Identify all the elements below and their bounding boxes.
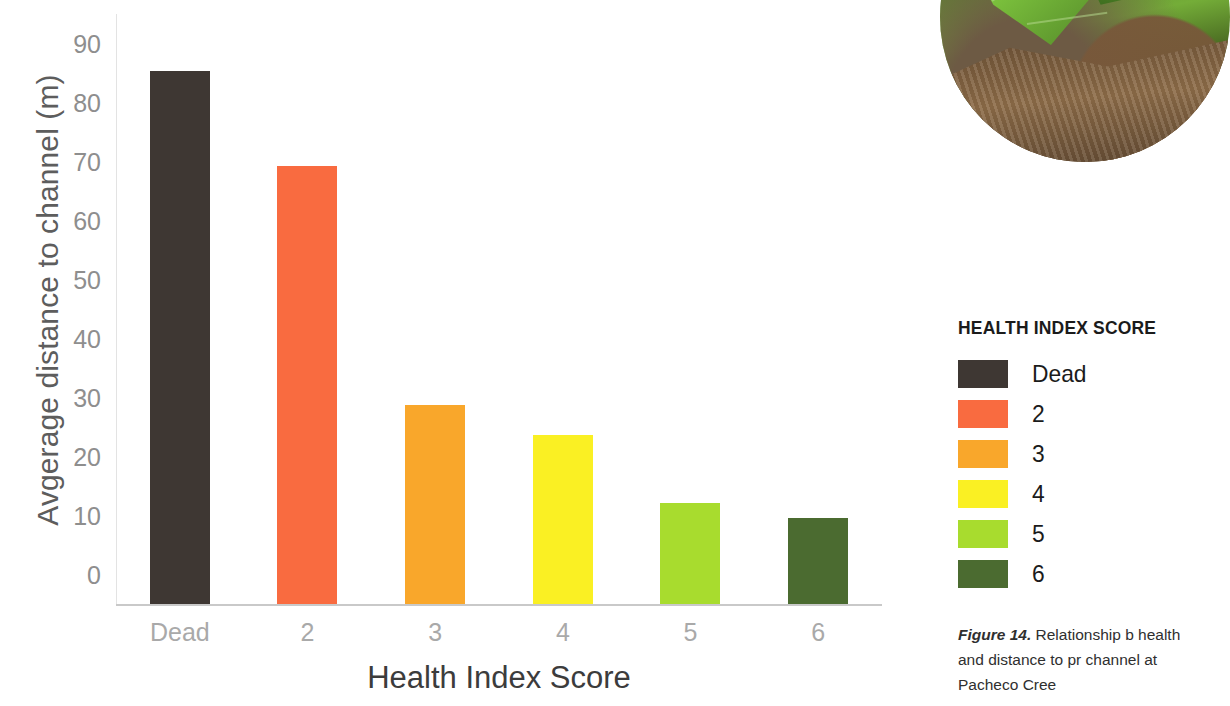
bar-group: 2	[244, 14, 372, 604]
legend-color-swatch	[958, 520, 1008, 548]
bar-group: 5	[627, 14, 755, 604]
bar-group: Dead	[116, 14, 244, 604]
legend-color-swatch	[958, 400, 1008, 428]
legend-item[interactable]: 6	[958, 557, 1178, 591]
x-axis-title: Health Index Score	[116, 660, 882, 696]
legend-item-label: 3	[1032, 440, 1045, 468]
bar[interactable]	[533, 435, 593, 604]
y-tick-label: 40	[73, 325, 116, 354]
bar-series: Dead23456	[116, 14, 882, 604]
legend-item[interactable]: 2	[958, 397, 1178, 431]
y-tick-label: 70	[73, 148, 116, 177]
legend-item[interactable]: 3	[958, 437, 1178, 471]
y-tick-label: 60	[73, 207, 116, 236]
y-tick-label: 10	[73, 502, 116, 531]
legend-item[interactable]: Dead	[958, 357, 1178, 391]
x-tick-label: 4	[556, 618, 570, 647]
bar[interactable]	[788, 518, 848, 604]
x-tick-label: 2	[301, 618, 315, 647]
legend: HEALTH INDEX SCORE Dead23456	[958, 317, 1178, 597]
legend-item-label: 6	[1032, 560, 1045, 588]
x-tick-label: 6	[811, 618, 825, 647]
bar-group: 3	[371, 14, 499, 604]
x-tick-label: 5	[684, 618, 698, 647]
bar-chart: Avgerage distance to channel (m) 0102030…	[0, 0, 930, 706]
figure-number: Figure 14.	[958, 626, 1031, 643]
y-tick-label: 90	[73, 30, 116, 59]
legend-item-label: 5	[1032, 520, 1045, 548]
legend-color-swatch	[958, 440, 1008, 468]
bar[interactable]	[277, 166, 337, 604]
y-axis-title: Avgerage distance to channel (m)	[31, 0, 65, 606]
legend-color-swatch	[958, 560, 1008, 588]
bar[interactable]	[150, 71, 210, 604]
legend-title: HEALTH INDEX SCORE	[958, 317, 1160, 339]
bar[interactable]	[660, 503, 720, 604]
legend-color-swatch	[958, 480, 1008, 508]
x-tick-label: Dead	[150, 618, 210, 647]
x-tick-label: 3	[428, 618, 442, 647]
legend-color-swatch	[958, 360, 1008, 388]
figure-caption: Figure 14. Relationship b health and dis…	[958, 622, 1194, 697]
legend-item-label: 4	[1032, 480, 1045, 508]
plot-area: 0102030405060708090100 Dead23456	[116, 14, 882, 606]
legend-item[interactable]: 4	[958, 477, 1178, 511]
plant-photo	[940, 0, 1230, 162]
bar-group: 4	[499, 14, 627, 604]
legend-items: Dead23456	[958, 357, 1178, 591]
legend-item-label: 2	[1032, 400, 1045, 428]
y-tick-label: 80	[73, 89, 116, 118]
bar[interactable]	[405, 405, 465, 604]
y-tick-label: 20	[73, 443, 116, 472]
y-tick-label: 30	[73, 384, 116, 413]
legend-item[interactable]: 5	[958, 517, 1178, 551]
bar-group: 6	[754, 14, 882, 604]
y-tick-label: 0	[87, 561, 116, 590]
legend-item-label: Dead	[1032, 360, 1087, 388]
y-tick-label: 50	[73, 266, 116, 295]
